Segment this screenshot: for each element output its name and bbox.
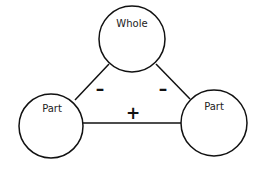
part-whole-diagram: Whole Part Part – – +: [0, 0, 264, 172]
plus-sign: +: [126, 103, 140, 123]
whole-circle: [99, 6, 165, 72]
whole-label: Whole: [116, 18, 147, 29]
part-right-label: Part: [204, 101, 224, 112]
minus-sign-right: –: [159, 79, 168, 99]
minus-sign-left: –: [96, 79, 105, 99]
part-right-circle: [181, 90, 247, 156]
part-left-label: Part: [42, 103, 62, 114]
